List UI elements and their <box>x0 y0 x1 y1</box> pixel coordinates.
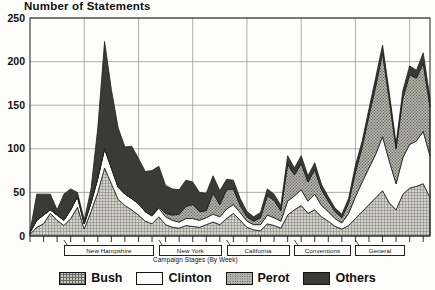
legend-swatch-perot <box>226 272 253 285</box>
legend-label-others: Others <box>335 271 375 285</box>
legend-swatch-others <box>303 272 330 285</box>
svg-text:150: 150 <box>7 99 25 111</box>
stage-label-new-hampshire: New Hampshire <box>64 245 154 256</box>
stage-label-new-york: New York <box>159 245 222 256</box>
stage-label-california: California <box>227 245 290 256</box>
legend-label-bush: Bush <box>91 271 122 285</box>
chart-legend: Bush Clinton Perot Others <box>0 267 435 289</box>
legend-swatch-bush <box>59 272 86 285</box>
legend-item-perot: Perot <box>226 271 290 285</box>
x-axis-caption: Campaign Stages (By Week) <box>153 256 238 263</box>
svg-text:0: 0 <box>19 230 25 242</box>
legend-label-perot: Perot <box>258 271 290 285</box>
svg-text:250: 250 <box>7 12 25 24</box>
legend-swatch-clinton <box>136 272 163 285</box>
stage-label-conventions: Conventions <box>294 245 350 256</box>
legend-item-clinton: Clinton <box>136 271 211 285</box>
svg-text:100: 100 <box>7 142 25 154</box>
stage-label-general: General <box>355 245 405 256</box>
legend-label-clinton: Clinton <box>168 271 211 285</box>
svg-text:50: 50 <box>13 186 25 198</box>
svg-text:200: 200 <box>7 55 25 67</box>
chart-container: Number of Statements 050100150200250 Cam… <box>0 0 435 290</box>
legend-item-others: Others <box>303 271 375 285</box>
legend-item-bush: Bush <box>59 271 122 285</box>
